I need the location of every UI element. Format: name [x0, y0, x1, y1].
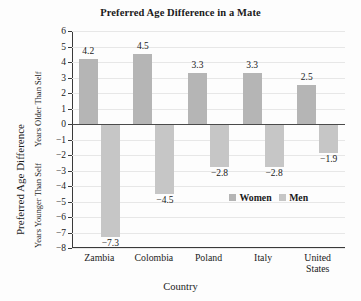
x-category-label: Zambia [84, 252, 114, 263]
y-tick-label: 5 [44, 42, 66, 52]
x-category-label-line: Colombia [135, 252, 174, 263]
chart-container: Preferred Age Difference in a Mate Prefe… [0, 0, 361, 301]
y-tick [68, 62, 72, 63]
legend-swatch-men-icon [279, 194, 286, 201]
y-tick [68, 217, 72, 218]
y-axis-lower-caption: Years Younger Than Self [33, 163, 43, 248]
plot-area: 6543210−1−2−3−4−5−6−7−8 4.2−7.34.5−4.53.… [72, 31, 345, 248]
x-category-label-line: Poland [195, 252, 222, 263]
legend-entry-women: Women [229, 192, 272, 203]
bar-label-men: −2.8 [211, 168, 228, 178]
y-tick [68, 202, 72, 203]
bar-men-zambia [101, 124, 120, 237]
gridline [72, 47, 345, 48]
bar-women-colombia [133, 54, 152, 124]
y-tick [68, 93, 72, 94]
bar-label-women: 4.2 [82, 46, 94, 56]
x-category-label-line: States [304, 263, 331, 274]
y-tick-label: −3 [44, 166, 66, 176]
y-axis-upper-caption: Years Older Than Self [33, 71, 43, 147]
y-tick [68, 47, 72, 48]
bar-women-united-states [297, 85, 316, 124]
gridline [72, 248, 345, 249]
y-tick-label: 2 [44, 88, 66, 98]
x-category-label-line: Zambia [84, 252, 114, 263]
x-category-label-line: United [304, 252, 331, 263]
bar-women-italy [243, 73, 262, 124]
y-tick-label: 3 [44, 73, 66, 83]
y-tick [68, 186, 72, 187]
legend-label-men: Men [289, 192, 308, 203]
x-category-label: Italy [254, 252, 272, 263]
bar-men-united-states [319, 124, 338, 153]
x-category-label: UnitedStates [304, 252, 331, 274]
y-tick-label: −1 [44, 135, 66, 145]
y-tick [68, 78, 72, 79]
bar-label-women: 3.3 [246, 60, 258, 70]
x-category-label: Poland [195, 252, 222, 263]
chart-legend: Women Men [229, 192, 308, 203]
y-tick [68, 171, 72, 172]
y-axis-title: Preferred Age Difference [14, 124, 26, 235]
bar-label-men: −2.8 [265, 168, 282, 178]
bar-men-poland [210, 124, 229, 167]
gridline [72, 31, 345, 32]
y-tick-label: 0 [44, 119, 66, 129]
legend-label-women: Women [240, 192, 272, 203]
chart-title: Preferred Age Difference in a Mate [0, 7, 361, 18]
y-tick-label: −2 [44, 150, 66, 160]
gridline [72, 62, 345, 63]
x-axis-title: Country [0, 281, 361, 292]
bar-label-women: 3.3 [192, 60, 204, 70]
y-tick [68, 109, 72, 110]
x-category-label: Colombia [135, 252, 174, 263]
y-tick-label: 1 [44, 104, 66, 114]
bar-men-italy [265, 124, 284, 167]
bar-women-zambia [79, 59, 98, 124]
y-tick-label: 6 [44, 26, 66, 36]
y-tick-label: −7 [44, 228, 66, 238]
y-tick [68, 140, 72, 141]
y-tick-label: −5 [44, 197, 66, 207]
bar-men-colombia [155, 124, 174, 194]
bar-label-men: −4.5 [156, 195, 173, 205]
bar-label-women: 2.5 [301, 72, 313, 82]
y-tick-label: −6 [44, 212, 66, 222]
legend-entry-men: Men [279, 192, 309, 203]
x-category-label-line: Italy [254, 252, 272, 263]
bar-label-men: −7.3 [102, 238, 119, 248]
bar-women-poland [188, 73, 207, 124]
bar-label-women: 4.5 [137, 41, 149, 51]
bar-label-men: −1.9 [320, 154, 337, 164]
zero-line [72, 124, 345, 125]
y-tick [68, 31, 72, 32]
y-tick [68, 233, 72, 234]
legend-swatch-women-icon [229, 194, 236, 201]
y-tick-label: −8 [44, 243, 66, 253]
y-tick [68, 155, 72, 156]
y-tick [68, 248, 72, 249]
y-tick-label: −4 [44, 181, 66, 191]
y-tick-label: 4 [44, 57, 66, 67]
